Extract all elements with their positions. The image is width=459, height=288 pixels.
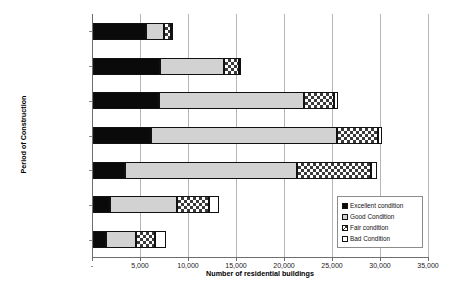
legend-swatch-icon (342, 214, 348, 220)
legend-swatch-icon (342, 225, 348, 231)
y-axis-tick (89, 170, 92, 171)
x-axis-tick (380, 257, 381, 261)
x-axis-tick (284, 257, 285, 261)
y-axis-tick (89, 205, 92, 206)
bar-segment[interactable] (93, 58, 160, 75)
x-axis-tick-label: 35,000 (403, 262, 453, 269)
y-axis-tick (89, 240, 92, 241)
y-axis-tick (89, 136, 92, 137)
legend-item[interactable]: Excellent condition (342, 200, 419, 211)
gridline (428, 14, 429, 257)
bar-segment[interactable] (155, 231, 166, 248)
bar-segment[interactable] (334, 92, 338, 109)
bar-segment[interactable] (177, 196, 209, 213)
bar-segment[interactable] (160, 58, 223, 75)
y-axis-title: Period of Construction (19, 60, 28, 210)
bar-segment[interactable] (93, 196, 110, 213)
bar-row[interactable] (93, 231, 166, 248)
x-axis-tick (428, 257, 429, 261)
legend-label: Excellent condition (350, 202, 403, 209)
legend-item[interactable]: Good Condition (342, 211, 419, 222)
bar-segment[interactable] (151, 127, 337, 144)
bar-row[interactable] (93, 58, 241, 75)
x-axis-tick (332, 257, 333, 261)
bar-row[interactable] (93, 162, 377, 179)
bar-segment[interactable] (93, 92, 159, 109)
bar-segment[interactable] (337, 127, 378, 144)
bar-segment[interactable] (93, 127, 151, 144)
bar-segment[interactable] (378, 127, 382, 144)
x-axis-tick (188, 257, 189, 261)
x-axis-tick-label: 10,000 (163, 262, 213, 269)
stacked-bar-chart: Period of Construction Number of residen… (0, 0, 459, 288)
bar-segment[interactable] (304, 92, 334, 109)
x-axis-tick-label: 5,000 (115, 262, 165, 269)
bar-segment[interactable] (125, 162, 297, 179)
bar-row[interactable] (93, 196, 219, 213)
legend-item[interactable]: Bad Condition (342, 233, 419, 244)
x-axis-tick (92, 257, 93, 261)
legend-swatch-icon (342, 203, 348, 209)
bar-segment[interactable] (371, 162, 377, 179)
y-axis-tick (89, 31, 92, 32)
x-axis-tick-label: 15,000 (211, 262, 261, 269)
bar-segment[interactable] (159, 92, 304, 109)
x-axis-title: Number of residential buildings (92, 269, 428, 278)
x-axis-tick-label: - (67, 262, 117, 269)
x-axis-tick-label: 25,000 (307, 262, 357, 269)
legend-label: Fair condition (350, 224, 388, 231)
y-axis-tick (89, 66, 92, 67)
legend-swatch-icon (342, 236, 348, 242)
bar-segment[interactable] (171, 23, 173, 40)
bar-segment[interactable] (136, 231, 155, 248)
bar-segment[interactable] (224, 58, 239, 75)
bar-segment[interactable] (106, 231, 136, 248)
chart-legend: Excellent conditionGood ConditionFair co… (337, 196, 423, 248)
bar-row[interactable] (93, 127, 382, 144)
bar-segment[interactable] (93, 23, 146, 40)
bar-segment[interactable] (93, 162, 125, 179)
legend-label: Good Condition (350, 213, 394, 220)
x-axis-tick-label: 30,000 (355, 262, 405, 269)
bar-segment[interactable] (93, 231, 106, 248)
bar-segment[interactable] (164, 23, 171, 40)
x-axis-tick (236, 257, 237, 261)
x-axis-line (92, 257, 428, 258)
bar-segment[interactable] (146, 23, 164, 40)
x-axis-tick (140, 257, 141, 261)
bar-segment[interactable] (297, 162, 372, 179)
bar-row[interactable] (93, 23, 173, 40)
legend-label: Bad Condition (350, 235, 390, 242)
bar-row[interactable] (93, 92, 338, 109)
bar-segment[interactable] (110, 196, 177, 213)
legend-item[interactable]: Fair condition (342, 222, 419, 233)
x-axis-tick-label: 20,000 (259, 262, 309, 269)
bar-segment[interactable] (209, 196, 219, 213)
bar-segment[interactable] (239, 58, 241, 75)
y-axis-tick (89, 101, 92, 102)
